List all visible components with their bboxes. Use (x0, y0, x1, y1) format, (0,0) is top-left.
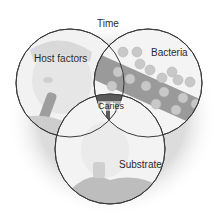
bacteria-label: Bacteria (151, 47, 188, 58)
caries-venn-diagram: Time Host factors Bacteria Substrate Car… (0, 0, 217, 218)
host-factors-label: Host factors (34, 53, 87, 64)
substrate-label: Substrate (119, 159, 162, 170)
caries-label: Caries (98, 101, 124, 111)
time-label: Time (97, 18, 119, 29)
